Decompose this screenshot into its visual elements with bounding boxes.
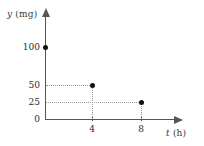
data-point-8-25 <box>139 100 144 105</box>
guide-line-horizontal-25 <box>46 102 141 103</box>
guide-line-horizontal-50 <box>46 85 92 86</box>
data-point-0-100 <box>43 45 48 50</box>
x-axis-arrow-icon <box>174 116 183 124</box>
x-axis-title-var: t <box>166 128 170 138</box>
y-axis-line <box>45 16 46 120</box>
y-tick-label-25: 25 <box>12 97 40 107</box>
y-axis-title: y (mg) <box>7 9 37 19</box>
decay-scatter-chart: y (mg) t (h) 100 50 25 0 4 8 <box>0 0 204 146</box>
y-tick-label-100: 100 <box>12 42 40 52</box>
y-tick-label-50: 50 <box>12 80 40 90</box>
x-tick-label-8: 8 <box>133 124 149 134</box>
x-axis-title: t (h) <box>166 128 186 138</box>
x-axis-title-unit: (h) <box>173 128 186 138</box>
x-axis-line <box>45 119 176 120</box>
y-axis-title-var: y <box>7 9 12 19</box>
y-axis-arrow-icon <box>42 8 50 17</box>
guide-line-vertical-8 <box>141 102 142 119</box>
y-tick-label-0: 0 <box>12 114 40 124</box>
y-axis-title-unit: (mg) <box>15 9 37 19</box>
x-tick-label-4: 4 <box>84 124 100 134</box>
data-point-4-50 <box>90 83 95 88</box>
